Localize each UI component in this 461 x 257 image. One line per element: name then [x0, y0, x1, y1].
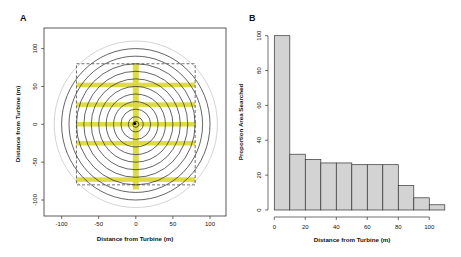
histogram-bar	[336, 163, 352, 210]
x-tick-label: 50	[170, 221, 177, 227]
panel-a-x-axis-title: Distance from Turbine (m)	[97, 235, 174, 242]
panel-b-x-axis-title: Distance from Turbine (m)	[314, 236, 391, 243]
histogram-bar	[274, 36, 290, 210]
figure: A -100-50050100-100-50050100 Distance fr…	[0, 0, 461, 257]
x-tick-label: 100	[424, 224, 435, 230]
y-tick-label: 80	[256, 67, 262, 74]
y-tick-label: 100	[256, 30, 262, 41]
y-tick-label: 100	[32, 43, 38, 54]
y-tick-label: 0	[256, 208, 262, 212]
x-tick-label: 0	[273, 224, 277, 230]
x-tick-label: -50	[94, 221, 103, 227]
turbine-marker	[133, 122, 136, 125]
panel-a-y-axis-title: Distance from Turbine (m)	[14, 86, 21, 163]
panel-a: A -100-50050100-100-50050100 Distance fr…	[14, 13, 226, 242]
x-tick-label: -100	[56, 221, 69, 227]
x-tick-label: 40	[333, 224, 340, 230]
x-tick-label: 100	[205, 221, 216, 227]
histogram-bar	[305, 159, 321, 210]
panel-b-label: B	[249, 13, 256, 23]
x-tick-label: 0	[134, 221, 138, 227]
y-tick-label: 50	[32, 82, 38, 89]
histogram-bar	[352, 165, 368, 210]
histogram-bar	[367, 165, 383, 210]
histogram-bar	[321, 163, 337, 210]
y-tick-label: 60	[256, 101, 262, 108]
y-tick-label: 20	[256, 171, 262, 178]
histogram-bar	[429, 205, 445, 210]
panel-b: B 020406080100020406080100 Distance from…	[237, 13, 445, 243]
histogram-bar	[290, 154, 306, 210]
histogram-bars	[274, 36, 445, 210]
histogram-bar	[414, 198, 430, 210]
x-tick-label: 80	[395, 224, 402, 230]
y-tick-label: 0	[32, 122, 38, 126]
x-tick-label: 20	[302, 224, 309, 230]
x-tick-label: 60	[364, 224, 371, 230]
y-tick-label: -100	[32, 193, 38, 206]
panel-b-y-axis-title: Proportion Area Searched	[237, 84, 244, 161]
histogram-bar	[398, 186, 414, 210]
panel-a-label: A	[20, 13, 27, 23]
y-tick-label: -50	[32, 157, 38, 166]
histogram-bar	[383, 165, 399, 210]
y-tick-label: 40	[256, 136, 262, 143]
